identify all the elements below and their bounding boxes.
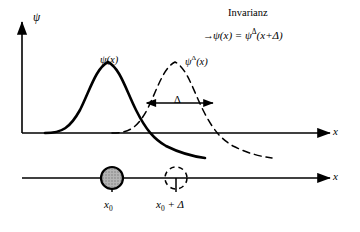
marker-label-x0: x0 bbox=[104, 199, 113, 213]
figure-container: Invarianz →ψ(x) = ψΔ(x+Δ) ψ x x ψ(x) ψΔ(… bbox=[0, 0, 360, 232]
marker-particle-original bbox=[101, 167, 123, 189]
invariance-equation: →ψ(x) = ψΔ(x+Δ) bbox=[203, 28, 283, 41]
upper-y-axis-label: ψ bbox=[33, 12, 40, 24]
equation-arrow-icon: → bbox=[203, 29, 213, 41]
curve-label-psi-dashed-tail: (x) bbox=[196, 56, 208, 67]
marker-label-x0-sub: 0 bbox=[109, 204, 113, 213]
equation-lhs: ψ(x) = ψ bbox=[213, 29, 252, 41]
upper-x-axis-label: x bbox=[333, 126, 338, 137]
curve-psi-solid bbox=[45, 62, 205, 158]
marker-label-x0-delta-tail: + Δ bbox=[165, 198, 184, 210]
marker-label-x0-delta: x0 + Δ bbox=[156, 199, 184, 213]
delta-label: Δ bbox=[174, 95, 181, 106]
lower-x-axis-label: x bbox=[333, 171, 338, 182]
curve-label-psi-dashed: ψΔ(x) bbox=[185, 55, 208, 67]
figure-title: Invarianz bbox=[228, 8, 268, 19]
equation-rhs: (x+Δ) bbox=[257, 29, 283, 41]
curve-label-psi-solid: ψ(x) bbox=[100, 55, 118, 66]
